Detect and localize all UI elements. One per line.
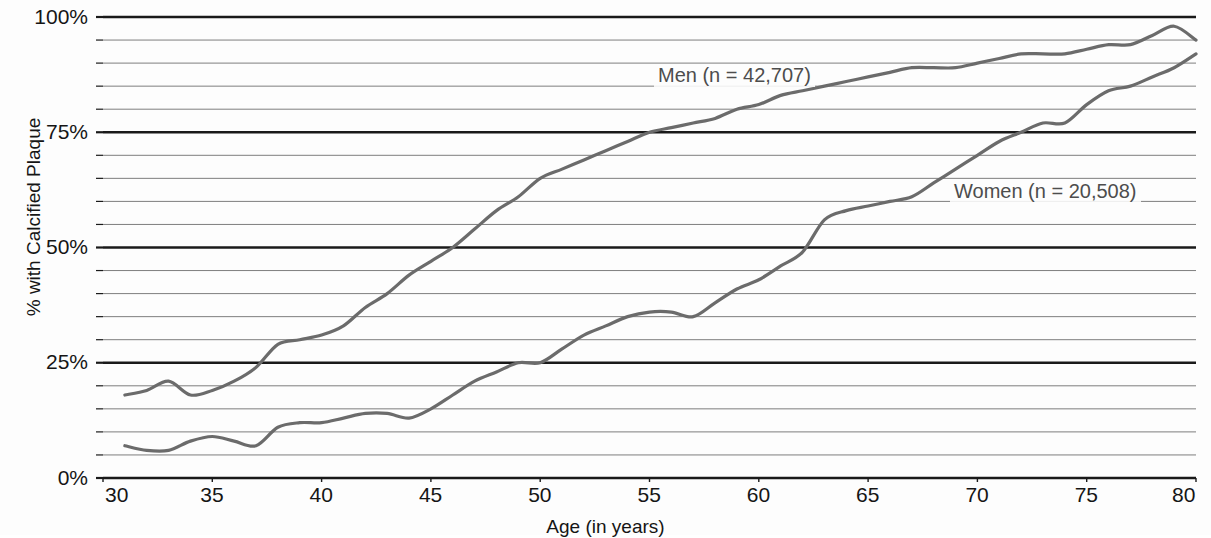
x-tickmark-group — [96, 17, 1196, 482]
x-tick-70: 70 — [965, 484, 988, 505]
series-label-women: Women (n = 20,508) — [950, 180, 1141, 203]
x-tick-65: 65 — [856, 484, 879, 505]
series-group — [125, 26, 1196, 451]
x-tick-80: 80 — [1172, 484, 1195, 505]
x-tick-45: 45 — [419, 484, 442, 505]
x-tick-60: 60 — [747, 484, 770, 505]
x-tick-50: 50 — [528, 484, 551, 505]
series-label-men: Men (n = 42,707) — [654, 64, 815, 87]
x-tick-75: 75 — [1075, 484, 1098, 505]
x-tick-40: 40 — [310, 484, 333, 505]
gridline-group — [103, 17, 1196, 478]
x-tick-35: 35 — [200, 484, 223, 505]
x-tick-55: 55 — [638, 484, 661, 505]
series-line-women — [125, 54, 1196, 451]
x-axis-title: Age (in years) — [0, 516, 1211, 538]
x-tick-30: 30 — [105, 484, 128, 505]
